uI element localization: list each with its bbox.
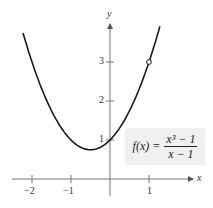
hole-point xyxy=(147,60,152,65)
y-axis-label: y xyxy=(107,8,111,19)
y-tick-label: 2 xyxy=(99,94,104,105)
y-tick-label: 1 xyxy=(99,133,104,144)
formula-numerator: x³ − 1 xyxy=(164,132,197,147)
formula-fraction: x³ − 1 x − 1 xyxy=(164,132,197,161)
y-tick-label: 3 xyxy=(99,55,104,66)
formula-denominator: x − 1 xyxy=(166,147,195,161)
x-tick-label: −2 xyxy=(24,185,35,196)
function-formula-box: f(x) = x³ − 1 x − 1 xyxy=(125,128,205,165)
x-tick-label: 1 xyxy=(147,185,152,196)
function-graph xyxy=(0,0,213,208)
x-axis-label: x xyxy=(197,172,201,183)
formula-lhs: f(x) = xyxy=(133,139,161,154)
x-tick-label: −1 xyxy=(63,185,74,196)
